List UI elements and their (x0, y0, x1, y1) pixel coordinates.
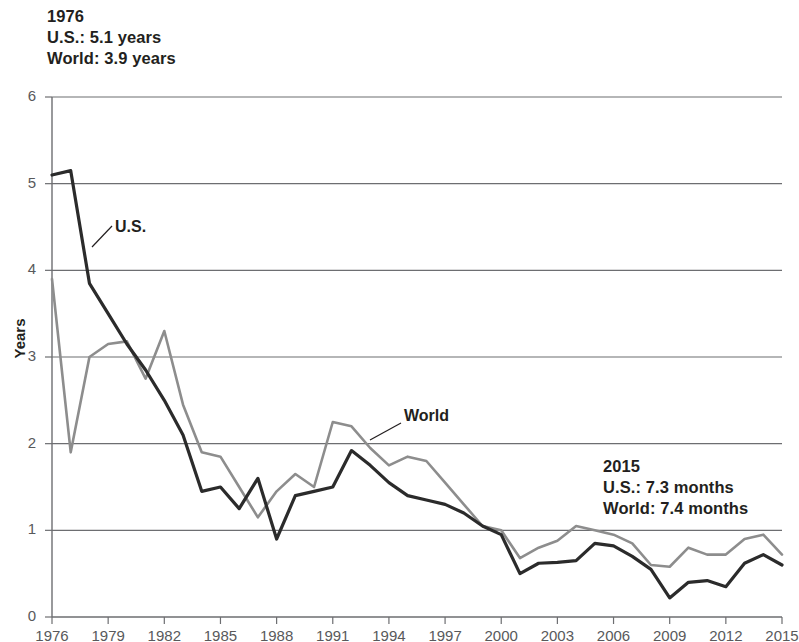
x-tick-1994: 1994 (362, 627, 416, 642)
x-tick-1985: 1985 (193, 627, 247, 642)
y-tick-2: 2 (10, 434, 36, 451)
x-tick-2006: 2006 (587, 627, 641, 642)
x-tick-2015: 2015 (755, 627, 799, 642)
annotation-1976-us: U.S.: 5.1 years (47, 27, 176, 48)
annotation-1976-world: World: 3.9 years (47, 48, 176, 69)
y-tick-1: 1 (10, 520, 36, 537)
annotation-2015: 2015 U.S.: 7.3 months World: 7.4 months (603, 456, 748, 519)
x-axis-ticks (52, 617, 782, 624)
annotation-1976: 1976 U.S.: 5.1 years World: 3.9 years (47, 6, 176, 69)
chart-figure: 1976 U.S.: 5.1 years World: 3.9 years 20… (0, 0, 799, 642)
x-tick-2003: 2003 (530, 627, 584, 642)
series-label-us: U.S. (115, 218, 146, 236)
x-tick-1988: 1988 (250, 627, 304, 642)
y-tick-5: 5 (10, 174, 36, 191)
plot-area (0, 0, 799, 642)
x-tick-1997: 1997 (418, 627, 472, 642)
x-tick-1982: 1982 (137, 627, 191, 642)
series-label-world: World (404, 407, 449, 425)
y-tick-3: 3 (10, 347, 36, 364)
annotation-2015-year: 2015 (603, 456, 748, 477)
x-tick-1976: 1976 (25, 627, 79, 642)
annotation-2015-us: U.S.: 7.3 months (603, 477, 748, 498)
x-tick-2000: 2000 (474, 627, 528, 642)
annotation-2015-world: World: 7.4 months (603, 498, 748, 519)
x-tick-1991: 1991 (306, 627, 360, 642)
x-tick-2012: 2012 (699, 627, 753, 642)
y-tick-6: 6 (10, 87, 36, 104)
annotation-1976-year: 1976 (47, 6, 176, 27)
y-tick-4: 4 (10, 260, 36, 277)
x-tick-1979: 1979 (81, 627, 135, 642)
y-tick-0: 0 (10, 607, 36, 624)
label-leader-lines (92, 226, 401, 440)
x-tick-2009: 2009 (643, 627, 697, 642)
data-series (52, 171, 782, 598)
